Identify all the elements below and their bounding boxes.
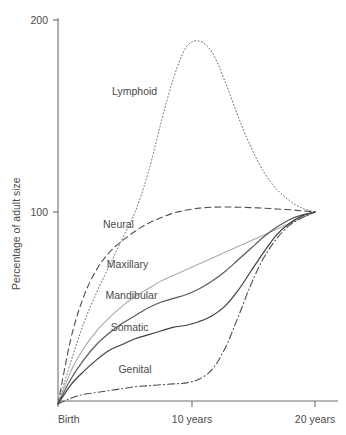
curve-mandibular xyxy=(58,212,315,404)
chart-canvas: 200 100 Birth 10 years 20 years Percenta… xyxy=(0,0,346,435)
curve-maxillary xyxy=(58,212,315,404)
series-labels-group: LymphoidNeuralMaxillaryMandibularSomatic… xyxy=(103,85,158,375)
x-tick-label-20-years: 20 years xyxy=(295,413,335,425)
curve-genital xyxy=(58,212,315,404)
growth-curves-chart: 200 100 Birth 10 years 20 years Percenta… xyxy=(0,0,346,435)
curves-group xyxy=(58,41,315,404)
curve-neural xyxy=(58,207,315,404)
series-label-lymphoid: Lymphoid xyxy=(112,85,157,97)
series-label-neural: Neural xyxy=(103,218,134,230)
series-label-mandibular: Mandibular xyxy=(106,289,158,301)
curve-lymphoid xyxy=(58,41,315,404)
y-tick-label-100: 100 xyxy=(30,206,48,218)
series-label-somatic: Somatic xyxy=(111,321,149,333)
curve-somatic xyxy=(58,212,315,404)
x-tick-label-10-years: 10 years xyxy=(172,413,212,425)
axis-group xyxy=(53,18,338,407)
series-label-maxillary: Maxillary xyxy=(107,258,149,270)
y-tick-label-200: 200 xyxy=(30,14,48,26)
series-label-genital: Genital xyxy=(118,363,151,375)
x-tick-label-birth: Birth xyxy=(58,413,80,425)
y-axis-title: Percentage of adult size xyxy=(10,177,22,290)
